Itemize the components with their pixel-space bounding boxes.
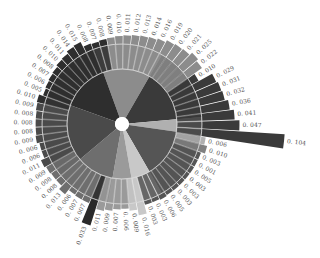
bar-value-label: 0. 041 <box>237 108 257 117</box>
bar-value-label: 0. 009 <box>101 212 111 232</box>
bar-value-label: 0. 011 <box>123 13 131 32</box>
inner-band-segment <box>42 120 67 127</box>
bar-value-label: 0. 008 <box>14 127 34 136</box>
radial-bar <box>123 35 131 44</box>
radial-bar <box>36 127 43 135</box>
radial-bar-chart: 0. 0090. 0100. 0110. 0120. 0130. 0140. 0… <box>0 0 320 258</box>
center-hole <box>115 117 129 131</box>
bar-value-label: 0. 104 <box>287 137 307 146</box>
radial-bar <box>36 119 43 127</box>
bar-value-label: 0. 012 <box>132 13 142 33</box>
bar-value-label: 0. 008 <box>14 118 33 125</box>
bar-value-label: 0. 033 <box>74 225 87 246</box>
radial-bar <box>121 204 128 209</box>
radial-bar <box>129 203 137 211</box>
bar-value-label: 0. 009 <box>14 98 34 109</box>
radial-bar <box>107 37 115 45</box>
radial-bar <box>115 36 123 44</box>
bar-value-label: 0. 009 <box>131 213 140 233</box>
radial-bar <box>113 204 121 210</box>
bar-value-label: 0. 032 <box>225 85 245 97</box>
bar-value-label: 0. 010 <box>197 62 217 78</box>
bar-value-label: 0. 006 <box>123 212 131 232</box>
radial-bar <box>202 120 240 130</box>
inner-band-segment <box>177 121 202 128</box>
radial-bar <box>131 35 140 46</box>
bar-value-label: 0. 047 <box>242 121 261 128</box>
bar-value-label: 0. 016 <box>141 216 152 236</box>
bar-value-label: 0. 009 <box>105 15 114 35</box>
bar-value-label: 0. 007 <box>111 212 119 232</box>
bar-value-label: 0. 036 <box>231 96 251 106</box>
bar-value-label: 0. 008 <box>14 108 34 117</box>
radial-bar <box>36 111 43 119</box>
bar-value-label: 0. 031 <box>221 74 241 87</box>
bar-value-label: 0. 010 <box>116 14 124 34</box>
